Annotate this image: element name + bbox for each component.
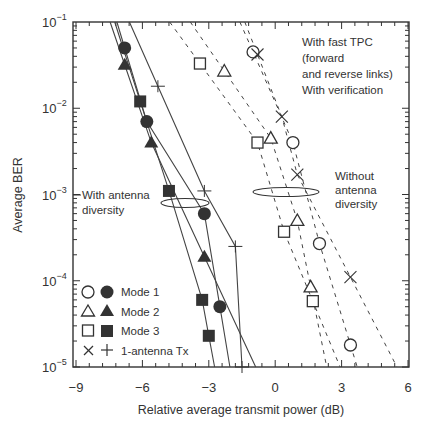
filled-circle-icon [198,207,211,220]
open-circle-icon [247,46,259,58]
x-tick-labels: −9−6−3036 [69,380,412,395]
open-square-icon [194,58,205,69]
plus-marker-icon [228,240,242,252]
open-triangle-icon [291,214,304,226]
open-circle-icon [313,238,325,250]
y-tick-label: 10−2 [42,98,67,116]
y-tick-label: 10−5 [42,357,67,375]
open-circle-icon [82,286,94,298]
open-square-icon [83,325,94,336]
filled-square-icon [203,330,215,342]
svg-text:Mode 3: Mode 3 [121,325,159,337]
x-marker-icon [276,111,288,123]
y-tick-label: 10−4 [42,271,67,289]
filled-square-icon [196,294,208,306]
open-triangle-icon [218,65,231,77]
legend-entry-mode-3: Mode 3 [83,325,160,337]
y-tick-label: 10−3 [42,185,67,203]
filled-square-icon [101,325,113,337]
ellipse-with-diversity [161,199,209,208]
annotation-without-diversity: Without antenna diversity [335,170,377,210]
plus-marker-icon [197,185,211,197]
open-triangle-icon [82,305,95,316]
legend: Mode 1 Mode 2 Mode 3 1-antenna Tx [82,286,189,358]
filled-circle-icon [213,300,226,313]
svg-text:With antenna: With antenna [82,189,150,201]
y-tick-label: 10−1 [42,12,67,30]
svg-text:With verification: With verification [302,84,383,96]
svg-text:Mode 2: Mode 2 [121,306,159,318]
plus-marker-icon [235,361,249,373]
filled-circle-icon [118,41,131,54]
svg-text:antenna: antenna [335,184,377,196]
legend-entry-mode-2: Mode 2 [82,304,160,318]
svg-text:Without: Without [335,170,375,182]
legend-entry-1-antenna-tx: 1-antenna Tx [84,344,189,357]
open-square-icon [252,137,263,148]
ber-chart: −9−6−3036 10−110−210−310−410−5 Relative … [0,0,430,439]
open-square-icon [307,296,318,307]
annotation-with-diversity: With antenna diversity [73,189,150,216]
y-tick-labels: 10−110−210−310−410−5 [42,12,67,375]
svg-text:Mode 1: Mode 1 [121,286,159,298]
annotation-fast-tpc: With fast TPC (forward and reverse links… [302,36,393,96]
svg-text:1-antenna Tx: 1-antenna Tx [121,345,189,357]
svg-text:With fast TPC: With fast TPC [302,36,373,48]
x-marker-icon [344,271,356,283]
svg-text:diversity: diversity [82,204,124,216]
plus-marker-icon [101,344,113,356]
svg-text:diversity: diversity [335,198,377,210]
legend-entry-mode-1: Mode 1 [82,286,159,299]
x-axis-title: Relative average transmit power (dB) [138,403,344,417]
x-tick-label: 6 [404,380,411,395]
y-axis-title: Average BER [11,157,25,233]
filled-triangle-icon [197,250,211,262]
filled-triangle-icon [100,304,114,316]
ellipse-without-diversity [253,188,319,197]
x-tick-label: 0 [272,380,279,395]
filled-circle-icon [101,286,114,299]
x-marker-icon [84,346,93,355]
open-circle-icon [287,137,299,149]
x-tick-label: −6 [135,380,150,395]
filled-square-icon [163,185,175,197]
x-tick-label: −3 [201,380,216,395]
svg-text:and reverse links): and reverse links) [302,68,393,80]
filled-square-icon [134,95,146,107]
plus-marker-icon [151,80,165,92]
svg-text:(forward: (forward [302,52,344,64]
filled-circle-icon [140,115,153,128]
open-triangle-icon [264,132,277,144]
x-tick-label: 3 [338,380,345,395]
x-tick-label: −9 [69,380,84,395]
open-square-icon [279,226,290,237]
open-circle-icon [344,339,356,351]
